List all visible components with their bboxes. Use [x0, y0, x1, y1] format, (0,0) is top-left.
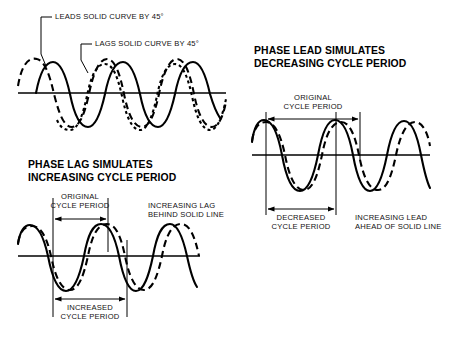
lead-dim-decreased-label-line1: DECREASED — [261, 213, 341, 222]
callout-label-leads: LEADS SOLID CURVE BY 45° — [55, 12, 164, 21]
heading-phase-lag-line2: INCREASING CYCLE PERIOD — [28, 172, 176, 184]
lag-dim-increased-label-line1: INCREASED — [50, 303, 130, 312]
lead-note-line1: INCREASING LEAD — [355, 213, 427, 222]
lag-note-line2: BEHIND SOLID LINE — [148, 210, 224, 219]
diagram-canvas: LEADS SOLID CURVE BY 45° LAGS SOLID CURV… — [0, 0, 464, 337]
lag-dim-increased-label-line2: CYCLE PERIOD — [50, 312, 130, 321]
callout-leader-lags — [81, 44, 92, 73]
lag-note-line1: INCREASING LAG — [148, 201, 215, 210]
lead-dim-decreased-label-line2: CYCLE PERIOD — [261, 222, 341, 231]
heading-phase-lag-line1: PHASE LAG SIMULATES — [28, 159, 153, 171]
panel-top-reference-curves — [18, 17, 226, 130]
lead-curve-original-dashed — [252, 122, 430, 190]
lead-dim-original-label-line1: ORIGINAL — [273, 93, 353, 102]
lag-dim-original-label-line2: CYCLE PERIOD — [40, 201, 120, 210]
heading-phase-lead-line2: DECREASING CYCLE PERIOD — [254, 58, 406, 70]
callout-leader-leads — [41, 17, 52, 66]
heading-phase-lead-line1: PHASE LEAD SIMULATES — [254, 45, 385, 57]
lag-dim-original-label-line1: ORIGINAL — [40, 192, 120, 201]
lead-dim-original-label-line2: CYCLE PERIOD — [273, 102, 353, 111]
panel-phase-lead-graphics — [252, 112, 430, 215]
lead-note-line2: AHEAD OF SOLID LINE — [355, 222, 442, 231]
callout-label-lags: LAGS SOLID CURVE BY 45° — [95, 39, 199, 48]
